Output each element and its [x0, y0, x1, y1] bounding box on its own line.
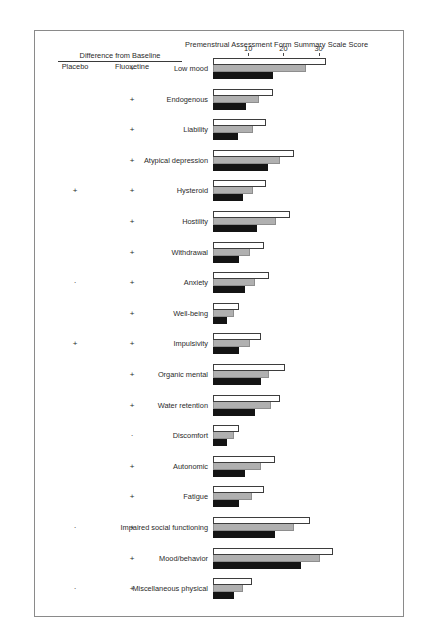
bar-white — [213, 425, 239, 432]
bar-group — [213, 395, 280, 416]
bar-group — [213, 486, 264, 507]
chart-row: ·+Impaired social functioning — [0, 517, 438, 547]
bar-black — [213, 500, 239, 507]
chart-row: +Endogenous — [0, 89, 438, 119]
bar-white — [213, 395, 280, 402]
bar-gray — [213, 585, 243, 592]
category-label: Impaired social functioning — [60, 523, 208, 533]
bar-group — [213, 333, 261, 354]
bar-black — [213, 103, 246, 110]
bar-gray — [213, 249, 250, 256]
chart-row: +Fatigue — [0, 486, 438, 516]
bar-group — [213, 578, 252, 599]
bar-gray — [213, 371, 269, 378]
bar-white — [213, 578, 252, 585]
bar-black — [213, 592, 234, 599]
bar-group — [213, 119, 266, 140]
bar-gray — [213, 157, 280, 164]
bar-white — [213, 303, 239, 310]
chart-row: ·+Anxiety — [0, 272, 438, 302]
bar-black — [213, 133, 238, 140]
bar-black — [213, 286, 245, 293]
bar-black — [213, 256, 239, 263]
category-label: Anxiety — [60, 278, 208, 288]
chart-row: +Mood/behavior — [0, 548, 438, 578]
bar-group — [213, 425, 239, 446]
bar-black — [213, 378, 261, 385]
bar-gray — [213, 493, 252, 500]
category-label: Impulsivity — [60, 339, 208, 349]
chart-row: +Liability — [0, 119, 438, 149]
bar-group — [213, 303, 239, 324]
bar-black — [213, 562, 301, 569]
chart-row: ·+Miscellaneous physical — [0, 578, 438, 608]
bar-white — [213, 89, 273, 96]
bar-white — [213, 272, 269, 279]
bar-gray — [213, 96, 259, 103]
bar-white — [213, 548, 333, 555]
bar-white — [213, 180, 266, 187]
bar-gray — [213, 340, 250, 347]
bar-white — [213, 242, 264, 249]
bar-gray — [213, 555, 320, 562]
category-label: Endogenous — [60, 95, 208, 105]
category-label: Hostility — [60, 217, 208, 227]
category-label: Water retention — [60, 401, 208, 411]
bar-black — [213, 531, 275, 538]
category-label: Mood/behavior — [60, 554, 208, 564]
bar-black — [213, 164, 268, 171]
category-label: Liability — [60, 125, 208, 135]
category-label: Withdrawal — [60, 248, 208, 258]
bar-group — [213, 456, 275, 477]
category-label: Well-being — [60, 309, 208, 319]
chart-title: Premenstrual Assessment Form Summary Sca… — [185, 40, 435, 49]
bar-white — [213, 517, 310, 524]
bar-black — [213, 317, 227, 324]
chart-row: +Atypical depression — [0, 150, 438, 180]
bar-gray — [213, 187, 253, 194]
bar-group — [213, 211, 290, 232]
category-label: Atypical depression — [60, 156, 208, 166]
bar-gray — [213, 65, 306, 72]
bar-group — [213, 364, 285, 385]
category-label: Low mood — [60, 64, 208, 74]
bar-gray — [213, 432, 234, 439]
chart-row: ·Discomfort — [0, 425, 438, 455]
bar-group — [213, 517, 310, 538]
chart-row: +Withdrawal — [0, 242, 438, 272]
bar-gray — [213, 218, 276, 225]
chart-row: +Hostility — [0, 211, 438, 241]
bar-group — [213, 242, 264, 263]
category-label: Autonomic — [60, 462, 208, 472]
bar-black — [213, 409, 255, 416]
category-label: Organic mental — [60, 370, 208, 380]
bar-black — [213, 470, 245, 477]
chart-row: +Well-being — [0, 303, 438, 333]
bar-group — [213, 89, 273, 110]
bar-group — [213, 180, 266, 201]
bar-group — [213, 548, 333, 569]
bar-white — [213, 211, 290, 218]
bar-black — [213, 194, 243, 201]
bar-white — [213, 456, 275, 463]
figure-container: Premenstrual Assessment Form Summary Sca… — [0, 0, 438, 637]
bar-black — [213, 439, 227, 446]
chart-row: +Autonomic — [0, 456, 438, 486]
category-label: Fatigue — [60, 492, 208, 502]
bar-gray — [213, 524, 294, 531]
chart-row: +Organic mental — [0, 364, 438, 394]
chart-row: ++Hysteroid — [0, 180, 438, 210]
bar-gray — [213, 279, 255, 286]
bar-white — [213, 58, 326, 65]
category-label: Hysteroid — [60, 186, 208, 196]
bar-group — [213, 272, 269, 293]
bar-white — [213, 119, 266, 126]
bar-group — [213, 58, 326, 79]
bar-white — [213, 333, 261, 340]
chart-row: +Water retention — [0, 395, 438, 425]
chart-row: +Low mood — [0, 58, 438, 88]
bar-gray — [213, 126, 253, 133]
bar-white — [213, 150, 294, 157]
bar-black — [213, 347, 239, 354]
bar-gray — [213, 463, 261, 470]
